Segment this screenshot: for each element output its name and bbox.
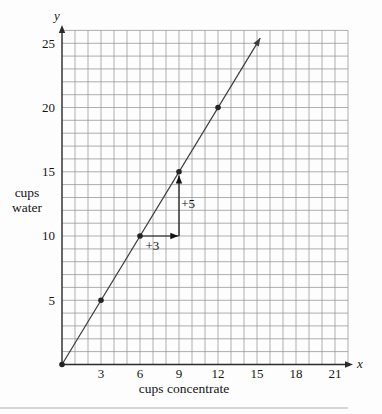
data-point	[215, 105, 221, 111]
plot-line	[62, 38, 260, 364]
x-axis-letter: x	[356, 356, 363, 371]
x-tick-label: 21	[329, 366, 342, 381]
y-tick-label: 25	[42, 36, 55, 51]
cups-water-vs-concentrate-graph: yx51015202536912151821+3+5cupswatercups …	[0, 0, 382, 414]
x-axis-arrowhead-icon	[345, 361, 353, 367]
slope-arrowhead-icon	[176, 176, 182, 184]
slope-label: +5	[181, 196, 195, 211]
grid	[62, 30, 348, 364]
data-point	[98, 297, 104, 303]
x-tick-label: 9	[176, 366, 183, 381]
y-axis-arrowhead-icon	[59, 25, 65, 33]
data-point	[59, 362, 65, 368]
data-point	[176, 169, 182, 175]
slope-label: +3	[145, 238, 159, 253]
x-tick-label: 18	[290, 366, 303, 381]
y-axis-letter: y	[52, 8, 60, 23]
graph-page: yx51015202536912151821+3+5cupswatercups …	[0, 0, 382, 414]
y-tick-label: 10	[42, 228, 55, 243]
y-axis-title: cups	[15, 185, 40, 200]
x-tick-label: 6	[137, 366, 144, 381]
data-point	[137, 233, 143, 239]
x-tick-label: 12	[212, 366, 225, 381]
slope-arrowhead-icon	[170, 233, 178, 239]
y-axis-title: water	[12, 200, 42, 215]
x-tick-label: 3	[98, 366, 105, 381]
y-tick-label: 5	[49, 293, 56, 308]
y-tick-label: 15	[42, 164, 55, 179]
x-tick-label: 15	[251, 366, 264, 381]
y-tick-label: 20	[42, 100, 55, 115]
x-axis-title: cups concentrate	[139, 381, 229, 396]
